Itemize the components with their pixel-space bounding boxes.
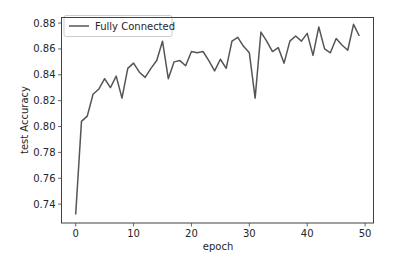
y-tick-label: 0.78 [33, 147, 55, 158]
x-axis-ticks: 01020304050 [72, 223, 371, 239]
x-tick-label: 20 [185, 228, 198, 239]
x-tick-label: 50 [359, 228, 372, 239]
x-tick-label: 10 [127, 228, 140, 239]
y-axis-ticks: 0.740.760.780.800.820.840.860.88 [33, 18, 61, 210]
y-tick-label: 0.88 [33, 18, 55, 29]
x-tick-label: 40 [301, 228, 314, 239]
y-tick-label: 0.82 [33, 95, 55, 106]
x-axis-label: epoch [203, 241, 233, 252]
series-line-0 [76, 24, 360, 214]
axes-frame [62, 18, 374, 224]
legend: Fully Connected [64, 16, 175, 37]
line-chart: 01020304050 0.740.760.780.800.820.840.86… [0, 0, 396, 265]
y-tick-label: 0.86 [33, 43, 55, 54]
y-tick-label: 0.80 [33, 121, 55, 132]
x-tick-label: 30 [243, 228, 256, 239]
y-tick-label: 0.76 [33, 173, 55, 184]
plot-area [76, 24, 360, 214]
legend-label: Fully Connected [95, 21, 175, 32]
y-tick-label: 0.74 [33, 199, 55, 210]
y-tick-label: 0.84 [33, 69, 55, 80]
y-axis-label: test Accuracy [19, 86, 30, 154]
x-tick-label: 0 [72, 228, 78, 239]
